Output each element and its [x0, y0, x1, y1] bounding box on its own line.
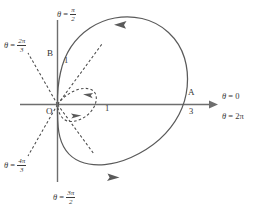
direction-arrowheads-group	[71, 21, 127, 181]
fraction-pi-over-2: π 2	[70, 7, 76, 23]
direction-arrow-inner-lower-icon	[71, 113, 82, 119]
plot-canvas	[0, 0, 258, 210]
label-theta-two-thirds-pi: θ = 2π 3	[4, 38, 26, 54]
fraction-2pi-over-3: 2π 3	[17, 38, 26, 54]
ray-2pi-over-3	[28, 53, 58, 105]
curve-outer-loop-group	[57, 17, 187, 165]
label-theta-half-pi: θ = π 2	[57, 7, 76, 23]
polar-limacon-figure: θ = π 2 θ = 3π 2 θ = 2π 3 θ = 4π 3 θ	[0, 0, 258, 210]
x-axis-arrowhead-icon	[209, 101, 218, 109]
label-theta-four-thirds-pi: θ = 4π 3	[4, 158, 26, 174]
fraction-4pi-over-3: 4π 3	[17, 158, 26, 174]
label-radius-1-inner: 1	[105, 104, 109, 113]
direction-arrow-top-icon	[114, 21, 127, 29]
label-point-o: O	[46, 107, 53, 116]
axes-group	[20, 20, 218, 182]
direction-arrow-bottom-icon	[107, 173, 120, 181]
limacon-outer-loop-path	[57, 17, 187, 165]
label-theta-zero: θ = 0	[222, 92, 239, 101]
direction-arrow-inner-upper-icon	[83, 92, 94, 98]
ray-4pi-over-3	[28, 105, 58, 157]
label-theta-three-half-pi: θ = 3π 2	[53, 190, 75, 206]
fraction-3pi-over-2: 3π 2	[66, 190, 75, 206]
ray-upper-right	[58, 44, 103, 105]
label-radius-3: 3	[189, 107, 193, 116]
label-theta-two-pi: θ = 2π	[222, 112, 244, 121]
label-point-a: A	[188, 88, 195, 97]
label-point-b: B	[47, 49, 53, 58]
label-radius-1-b: 1	[64, 56, 68, 65]
